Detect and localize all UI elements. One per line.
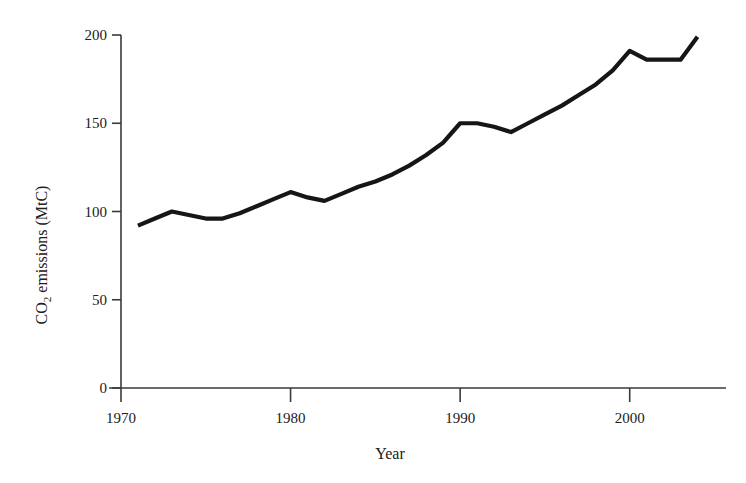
y-tick-label: 0	[100, 380, 108, 396]
x-axis-tick-labels: 1970198019902000	[106, 410, 645, 426]
x-axis-title: Year	[375, 445, 405, 462]
y-tick-label: 200	[85, 27, 108, 43]
y-tick-label: 100	[85, 204, 108, 220]
x-tick-label: 1970	[106, 410, 136, 426]
y-axis-ticks	[112, 35, 121, 388]
x-tick-label: 1990	[445, 410, 475, 426]
x-axis-ticks	[121, 388, 630, 402]
data-series-line	[138, 37, 698, 226]
chart-figure: 050100150200 1970198019902000 CO2 emissi…	[0, 0, 746, 483]
y-axis-tick-labels: 050100150200	[85, 27, 108, 396]
y-tick-label: 150	[85, 115, 108, 131]
x-tick-label: 2000	[615, 410, 645, 426]
y-axis-title: CO2 emissions (MtC)	[33, 186, 53, 325]
x-tick-label: 1980	[276, 410, 306, 426]
y-tick-label: 50	[92, 292, 107, 308]
line-chart: 050100150200 1970198019902000 CO2 emissi…	[0, 0, 746, 483]
